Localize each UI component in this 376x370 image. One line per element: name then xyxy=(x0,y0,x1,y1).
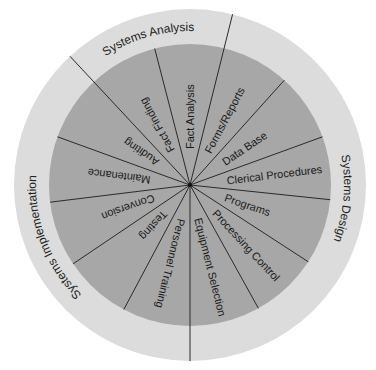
wedge-label-fact-analysis: Fact Analysis xyxy=(184,84,196,149)
center-hub xyxy=(188,183,192,187)
systems-lifecycle-wheel: Fact Analysis Forms/Reports Data Base Cl… xyxy=(0,0,376,370)
